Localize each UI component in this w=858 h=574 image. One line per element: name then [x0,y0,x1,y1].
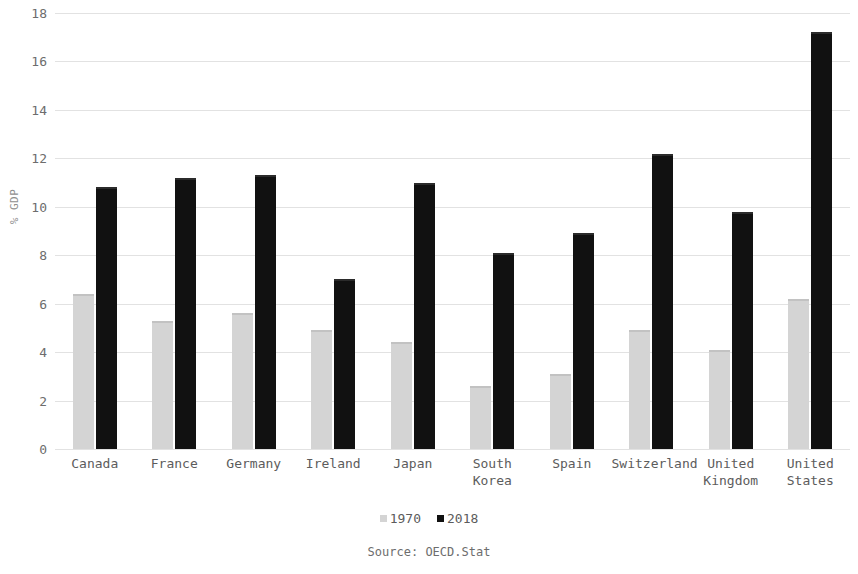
bar-france-1970 [152,321,173,449]
x-axis-label-line: Switzerland [612,455,692,472]
y-axis-tick-label: 0 [3,442,47,457]
bar-united-states-1970 [788,299,809,449]
x-axis-label-germany: Germany [214,455,294,472]
bar-chart: % GDP 024681012141618 CanadaFranceGerman… [0,0,858,574]
bar-group [214,13,294,449]
x-axis-label-line: Japan [373,455,453,472]
bar-group [453,13,533,449]
bar-group [532,13,612,449]
bar-spain-1970 [550,374,571,449]
chart-legend: 19702018 [0,511,858,526]
bar-switzerland-1970 [629,330,650,449]
x-axis-label-france: France [135,455,215,472]
bar-united-states-2018 [811,32,832,449]
legend-item-2018[interactable]: 2018 [437,511,478,526]
x-axis-label-line: United [771,455,851,472]
x-axis-label-spain: Spain [532,455,612,472]
x-axis-label-line: United [691,455,771,472]
legend-item-1970[interactable]: 1970 [380,511,421,526]
x-axis-label-united-states: UnitedStates [771,455,851,489]
x-axis-labels: CanadaFranceGermanyIrelandJapanSouthKore… [55,455,850,501]
x-axis-label-line: States [771,472,851,489]
x-axis-label-line: France [135,455,215,472]
bar-germany-1970 [232,313,253,449]
y-axis-tick-label: 8 [3,248,47,263]
bar-group [55,13,135,449]
x-axis-label-line: Spain [532,455,612,472]
bar-spain-2018 [573,233,594,449]
y-axis-tick-label: 2 [3,393,47,408]
bar-group [771,13,851,449]
bar-japan-1970 [391,342,412,449]
y-axis-tick-label: 10 [3,199,47,214]
legend-label: 1970 [390,511,421,526]
bar-group [373,13,453,449]
y-axis-tick-label: 16 [3,54,47,69]
legend-label: 2018 [447,511,478,526]
y-axis-tick-label: 12 [3,151,47,166]
legend-swatch-icon [437,515,444,522]
bar-ireland-1970 [311,330,332,449]
bar-ireland-2018 [334,279,355,449]
bar-united-kingdom-1970 [709,350,730,449]
bar-japan-2018 [414,183,435,449]
plot-area: 024681012141618 [55,13,850,449]
x-axis-label-south-korea: SouthKorea [453,455,533,489]
x-axis-label-canada: Canada [55,455,135,472]
bar-france-2018 [175,178,196,449]
bar-south-korea-1970 [470,386,491,449]
x-axis-label-united-kingdom: UnitedKingdom [691,455,771,489]
bar-south-korea-2018 [493,253,514,449]
bar-group [135,13,215,449]
bar-group [294,13,374,449]
x-axis-label-switzerland: Switzerland [612,455,692,472]
bar-united-kingdom-2018 [732,212,753,449]
x-axis-label-line: Germany [214,455,294,472]
bar-canada-1970 [73,294,94,449]
y-axis-tick-label: 4 [3,345,47,360]
gridline [55,449,850,450]
x-axis-label-line: Ireland [294,455,374,472]
bar-group [691,13,771,449]
y-axis-tick-label: 14 [3,102,47,117]
bar-group [612,13,692,449]
y-axis-tick-label: 18 [3,6,47,21]
bar-switzerland-2018 [652,154,673,450]
x-axis-label-japan: Japan [373,455,453,472]
y-axis-tick-label: 6 [3,296,47,311]
x-axis-label-line: Kingdom [691,472,771,489]
bar-canada-2018 [96,187,117,449]
source-caption: Source: OECD.Stat [0,545,858,559]
x-axis-label-ireland: Ireland [294,455,374,472]
bar-germany-2018 [255,175,276,449]
legend-swatch-icon [380,515,387,522]
x-axis-label-line: Canada [55,455,135,472]
x-axis-label-line: South [453,455,533,472]
x-axis-label-line: Korea [453,472,533,489]
